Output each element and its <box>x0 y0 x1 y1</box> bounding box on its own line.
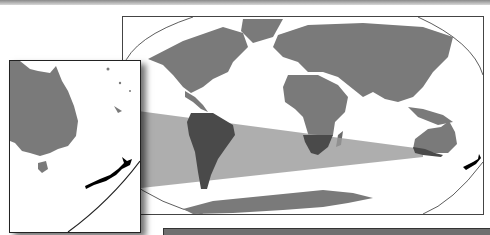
top-gradient-band <box>0 0 490 5</box>
world-map-graphic <box>123 17 483 214</box>
inset-map-australia-new-zealand <box>9 60 141 233</box>
world-map <box>122 16 484 215</box>
inset-map-graphic <box>10 61 140 232</box>
bottom-gray-bar <box>163 228 490 235</box>
